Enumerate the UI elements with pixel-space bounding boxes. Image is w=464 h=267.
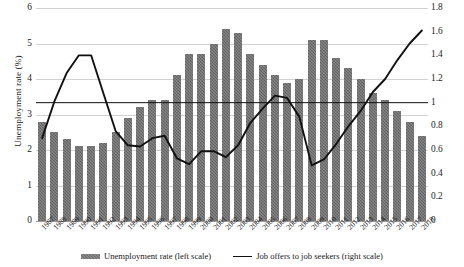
y-tick-left: 5 xyxy=(14,39,32,48)
y-tick-left: 0 xyxy=(14,216,32,225)
y-axis-left-ticks: 0123456 xyxy=(14,8,32,222)
plot-area xyxy=(36,8,428,222)
legend-item-unemployment-rate: Unemployment rate (left scale) xyxy=(81,252,211,261)
y-tick-right: 1.8 xyxy=(431,3,453,12)
job-offers-line xyxy=(42,30,422,165)
y-tick-right: 1 xyxy=(431,98,453,107)
y-tick-left: 1 xyxy=(14,181,32,190)
y-tick-right: 1.2 xyxy=(431,74,453,83)
line-swatch-icon xyxy=(233,256,252,257)
chart-legend: Unemployment rate (left scale) Job offer… xyxy=(0,249,464,263)
y-tick-left: 6 xyxy=(14,3,32,12)
y-tick-right: 0.4 xyxy=(431,169,453,178)
y-tick-right: 1.4 xyxy=(431,50,453,59)
y-tick-right: 1.6 xyxy=(431,27,453,36)
y-tick-left: 4 xyxy=(14,74,32,83)
y-tick-right: 0.8 xyxy=(431,121,453,130)
legend-item-job-offers: Job offers to job seekers (right scale) xyxy=(233,252,383,261)
y-tick-right: 0.2 xyxy=(431,192,453,201)
legend-label-job-offers: Job offers to job seekers (right scale) xyxy=(256,252,383,261)
x-axis-ticks: 1987198819891990199119921993199419951996… xyxy=(36,224,428,252)
y-axis-right-ticks: 00.20.40.60.811.21.41.61.8 xyxy=(431,8,455,222)
line-series xyxy=(36,8,428,222)
y-tick-left: 2 xyxy=(14,145,32,154)
chart-container: Unemployment rate (%) Ratio of job openi… xyxy=(0,0,464,267)
y-tick-right: 0.6 xyxy=(431,145,453,154)
bar-swatch-icon xyxy=(81,254,100,259)
y-tick-left: 3 xyxy=(14,110,32,119)
line-chart-svg xyxy=(36,8,428,222)
legend-label-unemployment-rate: Unemployment rate (left scale) xyxy=(104,252,211,261)
